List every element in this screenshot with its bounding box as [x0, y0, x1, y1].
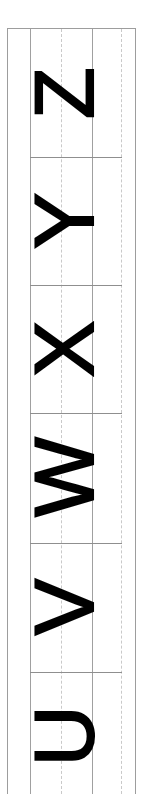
letter-glyph-w: W [22, 437, 106, 516]
letter-row-u: U [7, 672, 136, 794]
glyph-container: W [7, 413, 136, 541]
letter-row-v: V [7, 543, 136, 671]
letter-row-y: Y [7, 157, 136, 285]
glyph-container: Z [7, 29, 136, 157]
letter-row-x: X [7, 285, 136, 413]
glyph-container: V [7, 543, 136, 671]
letter-glyph-u: U [22, 706, 106, 767]
glyph-container: X [7, 285, 136, 413]
worksheet-page: Z Y X W V U [0, 0, 143, 794]
letter-row-z: Z [7, 29, 136, 157]
letter-glyph-y: Y [22, 193, 106, 249]
glyph-container: Y [7, 157, 136, 285]
letter-row-w: W [7, 413, 136, 541]
letter-glyph-x: X [22, 321, 106, 377]
letter-glyph-v: V [22, 579, 106, 635]
letter-glyph-z: Z [22, 67, 106, 118]
glyph-container: U [7, 672, 136, 794]
